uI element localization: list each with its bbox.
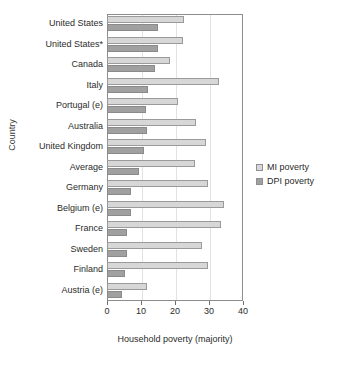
bar-dpi-poverty [107, 250, 127, 257]
category-label: United States [0, 18, 103, 28]
category-label: Belgium (e) [0, 203, 103, 213]
x-axis-ticks: 010203040 [107, 301, 243, 317]
bar-group [107, 35, 243, 56]
x-tick-mark-30 [209, 301, 210, 305]
bar-mi-poverty [107, 57, 170, 64]
bar-group [107, 117, 243, 138]
bar-group [107, 199, 243, 220]
x-tick-label: 30 [204, 306, 214, 316]
bar-dpi-poverty [107, 168, 139, 175]
category-label: Finland [0, 264, 103, 274]
bar-mi-poverty [107, 78, 219, 85]
x-tick-label: 0 [104, 306, 109, 316]
category-label: Canada [0, 59, 103, 69]
category-label: Italy [0, 80, 103, 90]
x-tick-mark-0 [107, 301, 108, 305]
category-label: United States* [0, 39, 103, 49]
category-label: Portugal (e) [0, 100, 103, 110]
bar-mi-poverty [107, 201, 224, 208]
bar-dpi-poverty [107, 65, 155, 72]
bar-group [107, 219, 243, 240]
x-axis-title: Household poverty (majority) [60, 334, 290, 344]
bar-group [107, 14, 243, 35]
x-tick-label: 20 [170, 306, 180, 316]
x-tick-mark-10 [141, 301, 142, 305]
legend-label: MI poverty [267, 162, 309, 172]
bar-mi-poverty [107, 98, 178, 105]
bars-layer [107, 14, 243, 301]
bar-group [107, 260, 243, 281]
category-label: Sweden [0, 244, 103, 254]
chart-legend: MI povertyDPI poverty [256, 162, 341, 190]
bar-chart: Country United StatesUnited States*Canad… [0, 0, 341, 365]
bar-mi-poverty [107, 180, 208, 187]
y-axis-category-labels: United StatesUnited States*CanadaItalyPo… [0, 14, 103, 301]
category-label: Average [0, 162, 103, 172]
bar-mi-poverty [107, 37, 183, 44]
category-label: Germany [0, 182, 103, 192]
legend-item: DPI poverty [256, 176, 341, 186]
bar-mi-poverty [107, 160, 195, 167]
x-tick-label: 40 [238, 306, 248, 316]
legend-swatch-mi-icon [256, 164, 263, 171]
bar-dpi-poverty [107, 86, 148, 93]
bar-mi-poverty [107, 16, 184, 23]
category-label: Austria (e) [0, 285, 103, 295]
bar-group [107, 96, 243, 117]
bar-group [107, 178, 243, 199]
legend-label: DPI poverty [267, 176, 314, 186]
bar-dpi-poverty [107, 291, 122, 298]
bar-group [107, 281, 243, 302]
bar-group [107, 240, 243, 261]
bar-mi-poverty [107, 242, 202, 249]
x-tick-label: 10 [136, 306, 146, 316]
bar-dpi-poverty [107, 209, 131, 216]
bar-group [107, 158, 243, 179]
bar-mi-poverty [107, 283, 147, 290]
legend-item: MI poverty [256, 162, 341, 172]
category-label: Australia [0, 121, 103, 131]
bar-mi-poverty [107, 139, 206, 146]
bar-dpi-poverty [107, 229, 127, 236]
x-tick-mark-40 [243, 301, 244, 305]
bar-mi-poverty [107, 262, 208, 269]
category-label: France [0, 223, 103, 233]
category-label: United Kingdom [0, 141, 103, 151]
bar-dpi-poverty [107, 270, 125, 277]
bar-dpi-poverty [107, 24, 158, 31]
bar-mi-poverty [107, 119, 196, 126]
bar-group [107, 76, 243, 97]
legend-swatch-dpi-icon [256, 178, 263, 185]
bar-dpi-poverty [107, 45, 158, 52]
bar-group [107, 137, 243, 158]
bar-dpi-poverty [107, 127, 147, 134]
bar-group [107, 55, 243, 76]
x-tick-mark-20 [175, 301, 176, 305]
bar-dpi-poverty [107, 106, 146, 113]
bar-dpi-poverty [107, 147, 144, 154]
bar-mi-poverty [107, 221, 221, 228]
bar-dpi-poverty [107, 188, 131, 195]
